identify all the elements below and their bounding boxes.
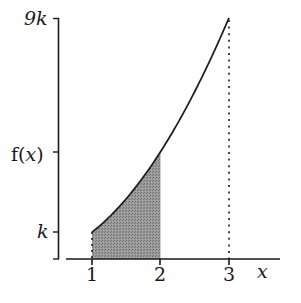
graph-canvas <box>0 0 301 303</box>
y-label-k: k <box>37 222 49 241</box>
y-label-fx: f(x) <box>11 145 44 164</box>
fx-x: x <box>25 143 36 165</box>
x-label-1: 1 <box>86 265 98 284</box>
fx-f: f( <box>11 143 25 165</box>
y-label-9k: 9k <box>24 9 48 28</box>
graph-figure: 9k f(x) k 1 2 3 x <box>0 0 301 303</box>
fx-close: ) <box>36 143 43 165</box>
x-axis-label: x <box>257 262 268 281</box>
x-label-3: 3 <box>223 265 235 284</box>
x-label-2: 2 <box>154 265 166 284</box>
